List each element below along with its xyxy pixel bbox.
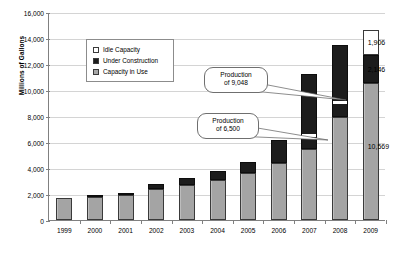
- x-axis-label-2006: 2006: [271, 227, 286, 234]
- legend: Idle Capacity Under Construction Capacit…: [86, 39, 174, 82]
- bar-1999[interactable]: [56, 12, 72, 220]
- x-axis-label-2003: 2003: [180, 227, 195, 234]
- y-axis-tick-label: 12,000: [24, 62, 44, 69]
- segment-capacity-in-use-2000: [87, 197, 103, 220]
- segment-capacity-in-use-2007: [301, 149, 317, 221]
- x-axis-tick: [141, 220, 142, 224]
- bar-2008[interactable]: [332, 12, 348, 220]
- legend-label-capacity-in-use: Capacity in Use: [103, 68, 148, 75]
- segment-capacity-in-use-2002: [148, 189, 164, 220]
- x-axis-label-2001: 2001: [118, 227, 133, 234]
- segment-under-construction-2003: [179, 178, 195, 185]
- y-axis-tick: [46, 13, 50, 14]
- segment-capacity-in-use-2005: [240, 173, 256, 220]
- y-axis-tick-label: 4,000: [27, 166, 44, 173]
- x-axis-label-2008: 2008: [333, 227, 348, 234]
- x-axis-label-2004: 2004: [210, 227, 225, 234]
- x-axis-tick: [294, 220, 295, 224]
- segment-capacity-in-use-2004: [210, 180, 226, 220]
- idle-capacity-swatch-icon: [93, 47, 99, 53]
- bar-2003[interactable]: [179, 12, 195, 220]
- x-axis-tick: [233, 220, 234, 224]
- x-axis-label-2000: 2000: [88, 227, 103, 234]
- legend-item-idle-capacity: Idle Capacity: [93, 44, 168, 55]
- legend-label-idle-capacity: Idle Capacity: [103, 46, 140, 53]
- segment-under-construction-2002: [148, 184, 164, 189]
- segment-capacity-in-use-2003: [179, 185, 195, 220]
- y-axis-tick: [46, 221, 50, 222]
- data-label-idle-capacity-2009: 1,906: [368, 39, 386, 46]
- x-axis-label-2005: 2005: [241, 227, 256, 234]
- y-axis-tick: [46, 195, 50, 196]
- ethanol-capacity-stacked-bar-chart: Millions of Gallons 02,0004,0006,0008,00…: [0, 0, 393, 259]
- y-axis-tick-label: 10,000: [24, 88, 44, 95]
- x-axis-label-2009: 2009: [363, 227, 378, 234]
- y-axis-tick-label: 14,000: [24, 36, 44, 43]
- x-axis-tick: [263, 220, 264, 224]
- data-label-capacity-in-use-2009: 10,569: [368, 143, 389, 150]
- x-axis-tick: [172, 220, 173, 224]
- segment-capacity-in-use-2009: [363, 83, 379, 220]
- y-axis-tick: [46, 65, 50, 66]
- y-axis-tick-label: 0: [40, 218, 44, 225]
- annotation-line-1: Production: [209, 71, 263, 79]
- y-axis-tick: [46, 91, 50, 92]
- segment-under-construction-2005: [240, 162, 256, 172]
- y-axis-tick: [46, 169, 50, 170]
- x-axis-tick: [355, 220, 356, 224]
- segment-under-construction-2000: [87, 195, 103, 197]
- y-axis-tick: [46, 143, 50, 144]
- y-axis-tick-label: 16,000: [24, 10, 44, 17]
- x-axis-tick: [325, 220, 326, 224]
- x-axis-tick: [386, 220, 387, 224]
- y-axis-tick-label: 2,000: [27, 192, 44, 199]
- under-construction-swatch-icon: [93, 58, 99, 64]
- annotation-line-2: of 9,048: [209, 79, 263, 87]
- capacity-in-use-swatch-icon: [93, 69, 99, 75]
- segment-capacity-in-use-1999: [56, 198, 72, 220]
- segment-under-construction-2001: [118, 193, 134, 195]
- y-axis-tick: [46, 39, 50, 40]
- x-axis-label-2007: 2007: [302, 227, 317, 234]
- legend-item-under-construction: Under Construction: [93, 55, 168, 66]
- legend-label-under-construction: Under Construction: [103, 57, 158, 64]
- bar-2006[interactable]: [271, 12, 287, 220]
- annotation-production-6500: Production of 6,500: [197, 113, 259, 139]
- x-axis-tick: [110, 220, 111, 224]
- x-axis-tick: [202, 220, 203, 224]
- bar-2007[interactable]: [301, 12, 317, 220]
- segment-capacity-in-use-2006: [271, 163, 287, 220]
- x-axis-tick: [80, 220, 81, 224]
- segment-capacity-in-use-2001: [118, 195, 134, 220]
- annotation-production-9048: Production of 9,048: [204, 67, 268, 93]
- x-axis-label-2002: 2002: [149, 227, 164, 234]
- segment-under-construction-2004: [210, 171, 226, 179]
- legend-item-capacity-in-use: Capacity in Use: [93, 66, 168, 77]
- y-axis-tick: [46, 117, 50, 118]
- x-axis-label-1999: 1999: [57, 227, 72, 234]
- data-label-under-construction-2009: 2,146: [368, 66, 386, 73]
- y-axis-tick-label: 8,000: [27, 114, 44, 121]
- y-axis-tick-label: 6,000: [27, 140, 44, 147]
- annotation-line-2: of 6,500: [202, 125, 254, 133]
- annotation-line-1: Production: [202, 117, 254, 125]
